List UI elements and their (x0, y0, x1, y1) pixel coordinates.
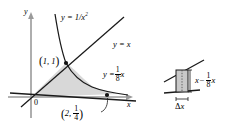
figure-canvas (0, 0, 238, 126)
strip-height-var2: x (211, 75, 215, 85)
curve-label-eighth-var: x (121, 69, 125, 79)
curve-label-eighth-lhs: y = (103, 69, 115, 79)
point-label-1-1: (1, 1) (39, 56, 59, 67)
figure-area-between-curves: y x 0 y = 1/x2 y = x y =18x (1, 1) (2, 1… (0, 0, 238, 126)
x-axis-label: x (127, 101, 131, 109)
curve-label-exponent: 2 (85, 11, 88, 17)
strip-width-var: x (180, 101, 184, 111)
curve-label-eighth: y =18x (103, 66, 124, 83)
curve-label-reciprocal-square-text: y = 1/x (61, 12, 85, 22)
point-label-2-quarter: (2, 14) (61, 105, 83, 122)
strip-height-var1: x (195, 75, 199, 85)
point-label-2-quarter-close: ) (79, 108, 83, 120)
dot-point-2-quarter (105, 93, 109, 97)
y-axis-label: y (24, 8, 28, 16)
point-label-1-1-close: ) (56, 55, 60, 67)
leader-line-point-2-quarter (101, 98, 108, 112)
curve-label-identity: y = x (113, 40, 131, 49)
dot-point-1-1 (64, 61, 68, 65)
point-label-2-quarter-x: 2, (65, 108, 74, 118)
strip-height-minus: − (200, 75, 205, 85)
strip-width-label: Δx (175, 102, 184, 111)
strip-height-label: x−18x (195, 72, 215, 89)
curve-label-reciprocal-square: y = 1/x2 (61, 13, 88, 22)
origin-label: 0 (34, 99, 38, 107)
height-measure-ticks (188, 70, 192, 92)
